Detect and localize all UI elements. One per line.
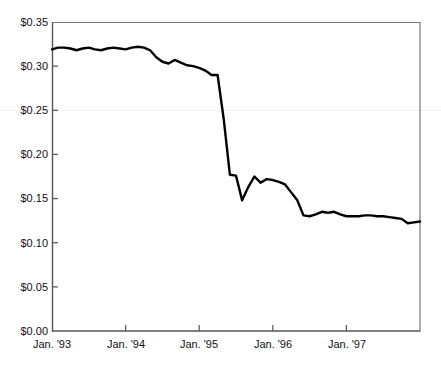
y-tick-label-0.20: $0.20 <box>4 149 48 160</box>
y-tick-label-0.30: $0.30 <box>4 61 48 72</box>
x-tick-label-jan-97: Jan. '97 <box>307 339 387 350</box>
y-tick-label-0.05: $0.05 <box>4 282 48 293</box>
y-tick-label-0.35: $0.35 <box>4 17 48 28</box>
y-tick-label-0.25: $0.25 <box>4 105 48 116</box>
x-tick-label-jan-94: Jan. '94 <box>86 339 166 350</box>
chart-figure: $0.35 $0.30 $0.25 $0.20 $0.15 $0.10 $0.0… <box>0 0 441 368</box>
x-tick-label-jan-95: Jan. '95 <box>159 339 239 350</box>
x-tick-label-jan-93: Jan. '93 <box>12 339 92 350</box>
x-tick-label-jan-96: Jan. '96 <box>233 339 313 350</box>
chart-background <box>0 0 441 368</box>
line-chart <box>0 0 441 368</box>
y-tick-label-0.00: $0.00 <box>4 326 48 337</box>
y-tick-label-0.15: $0.15 <box>4 193 48 204</box>
y-tick-label-0.10: $0.10 <box>4 238 48 249</box>
